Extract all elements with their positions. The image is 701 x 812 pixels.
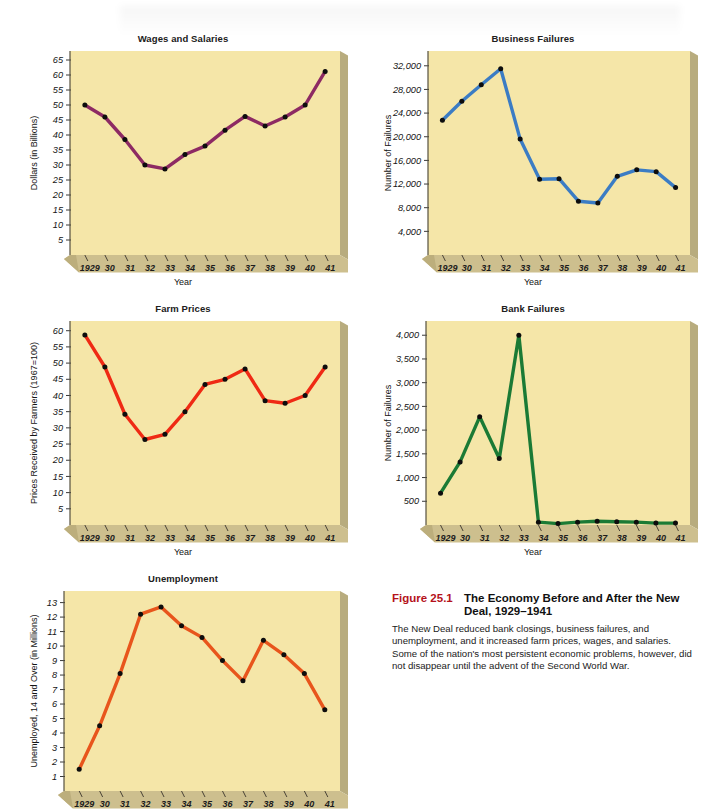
x-axis-tick-label: 37 <box>245 263 256 273</box>
x-axis-tick-label: 40 <box>655 263 666 273</box>
plot-side-face <box>690 51 698 261</box>
x-axis-tick-label: 32 <box>145 533 155 543</box>
chart-svg: 5001,0001,5002,0002,5003,0003,5004,00019… <box>368 315 698 570</box>
data-point <box>138 612 143 617</box>
y-axis-tick-label: 6 <box>52 699 58 709</box>
data-point <box>182 409 187 414</box>
data-point <box>595 519 600 524</box>
data-point <box>536 520 541 525</box>
data-point <box>302 671 307 676</box>
figure-number: Figure 25.1 <box>392 592 464 605</box>
data-point <box>303 103 308 108</box>
x-axis-tick-label: 30 <box>462 263 472 273</box>
y-axis-tick-label: 9 <box>52 656 57 666</box>
x-axis-tick-label: 1929 <box>437 263 457 273</box>
figure-body-text: The New Deal reduced bank closings, busi… <box>392 623 692 673</box>
x-axis-tick-label: 38 <box>265 533 275 543</box>
x-axis-tick-label: 39 <box>284 799 294 809</box>
data-point <box>614 519 619 524</box>
x-axis-tick-label: 36 <box>578 263 589 273</box>
x-axis-tick-label: 30 <box>105 263 115 273</box>
x-axis-tick-label: 36 <box>225 263 236 273</box>
y-axis-tick-label: 13 <box>47 598 58 608</box>
x-axis-tick-label: 1929 <box>74 799 94 809</box>
y-axis-tick-label: 10 <box>47 641 58 651</box>
data-point <box>179 623 184 628</box>
chart-svg: 4,0008,00012,00016,00020,00024,00028,000… <box>368 45 698 300</box>
data-point <box>634 520 639 525</box>
y-axis-tick-label: 3 <box>52 743 58 753</box>
data-point <box>162 432 167 437</box>
x-axis-tick-label: 37 <box>243 799 254 809</box>
x-axis-title: Year <box>18 277 348 287</box>
x-axis-tick-label: 37 <box>245 533 256 543</box>
x-axis-tick-label: 41 <box>324 533 335 543</box>
x-axis-tick-label: 33 <box>165 533 175 543</box>
x-axis-tick-label: 39 <box>636 533 646 543</box>
x-axis-tick-label: 35 <box>205 263 216 273</box>
x-axis-tick-label: 39 <box>285 533 295 543</box>
x-axis-tick-label: 39 <box>637 263 647 273</box>
y-axis-tick-label: 5 <box>52 714 58 724</box>
data-point <box>673 521 678 526</box>
chart-panel-unemployment: Unemployment 123456789101112131929303132… <box>18 572 348 812</box>
x-axis-tick-label: 38 <box>617 533 627 543</box>
x-axis-tick-label: 33 <box>165 263 175 273</box>
data-point <box>576 199 581 204</box>
x-axis-tick-label: 36 <box>222 799 233 809</box>
x-axis-tick-label: 41 <box>675 263 686 273</box>
y-axis-tick-label: 5 <box>58 504 64 514</box>
x-axis-tick-label: 36 <box>225 533 236 543</box>
x-axis-tick-label: 38 <box>617 263 627 273</box>
y-axis-tick-label: 30 <box>53 160 64 170</box>
data-point <box>537 177 542 182</box>
data-point <box>556 521 561 526</box>
x-axis-tick-label: 41 <box>324 263 335 273</box>
x-axis-tick-label: 38 <box>263 799 273 809</box>
data-point <box>477 414 482 419</box>
data-point <box>458 459 463 464</box>
data-point <box>82 103 87 108</box>
y-axis-tick-label: 60 <box>53 326 64 336</box>
data-point <box>223 377 228 382</box>
data-point <box>498 66 503 71</box>
figure-title: The Economy Before and After the New Dea… <box>464 592 682 618</box>
y-axis-tick-label: 55 <box>53 342 64 352</box>
y-axis-tick-label: 1,500 <box>396 449 420 459</box>
data-point <box>653 521 658 526</box>
y-axis-title: Unemployed, 14 and Over (in Millions) <box>29 614 39 767</box>
y-axis-tick-label: 12 <box>47 612 57 622</box>
data-point <box>243 366 248 371</box>
y-axis-tick-label: 8,000 <box>398 203 422 213</box>
y-axis-tick-label: 1 <box>52 772 57 782</box>
y-axis-title: Number of Failures <box>383 115 393 192</box>
plot-area: 4,0008,00012,00016,00020,00024,00028,000… <box>368 45 698 300</box>
y-axis-tick-label: 2,500 <box>395 402 420 412</box>
y-axis-tick-label: 3,000 <box>396 378 420 388</box>
data-point <box>102 364 107 369</box>
x-axis-tick-label: 36 <box>578 533 589 543</box>
plot-side-face <box>340 51 348 261</box>
data-point <box>263 124 268 129</box>
x-axis-tick-label: 35 <box>558 533 569 543</box>
y-axis-tick-label: 2,000 <box>395 425 420 435</box>
data-point <box>634 167 639 172</box>
y-axis-tick-label: 35 <box>53 407 64 417</box>
y-axis-tick-label: 4 <box>52 728 57 738</box>
y-axis-tick-label: 28,000 <box>392 85 422 95</box>
x-axis-tick-label: 38 <box>265 263 275 273</box>
y-axis-tick-label: 45 <box>53 115 64 125</box>
x-axis-tick-label: 31 <box>120 799 130 809</box>
plot-background <box>426 321 690 525</box>
x-axis-tick-label: 41 <box>674 533 685 543</box>
y-axis-tick-label: 5 <box>58 235 64 245</box>
plot-side-face <box>340 321 348 531</box>
y-axis-tick-label: 500 <box>404 496 420 506</box>
x-axis-tick-label: 37 <box>597 533 608 543</box>
plot-background <box>70 51 340 255</box>
data-point <box>459 99 464 104</box>
plot-side-face <box>690 321 698 531</box>
y-axis-tick-label: 40 <box>53 391 64 401</box>
data-point <box>303 393 308 398</box>
data-point <box>97 723 102 728</box>
